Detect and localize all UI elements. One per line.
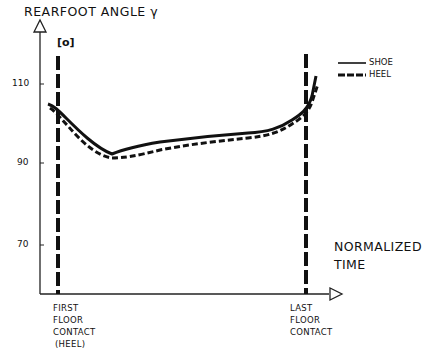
y-axis-arrow-icon (34, 20, 46, 32)
last-contact-line3: CONTACT (290, 326, 332, 338)
shoe-curve (48, 76, 316, 154)
y-axis-title: REARFOOT ANGLE γ (24, 4, 158, 19)
tick-label-70: 70 (17, 239, 28, 249)
x-axis-arrow-icon (330, 288, 342, 300)
first-contact-label: FIRST FLOOR CONTACT (HEEL) (53, 302, 95, 350)
x-axis-title: NORMALIZED TIME (334, 238, 422, 274)
last-contact-line1: LAST (290, 302, 332, 314)
first-contact-line4: (HEEL) (53, 338, 95, 350)
legend-shoe-label: SHOE (369, 57, 393, 67)
first-contact-line3: CONTACT (53, 326, 95, 338)
tick-label-110: 110 (12, 78, 29, 88)
legend-heel-label: HEEL (369, 69, 391, 79)
first-contact-line1: FIRST (53, 302, 95, 314)
x-axis-title-line2: TIME (334, 256, 422, 274)
tick-label-90: 90 (17, 157, 28, 167)
heel-curve (50, 84, 318, 158)
last-contact-label: LAST FLOOR CONTACT (290, 302, 332, 338)
first-contact-line2: FLOOR (53, 314, 95, 326)
last-contact-line2: FLOOR (290, 314, 332, 326)
x-axis-title-line1: NORMALIZED (334, 238, 422, 256)
phase-marker: [o] (57, 36, 75, 49)
